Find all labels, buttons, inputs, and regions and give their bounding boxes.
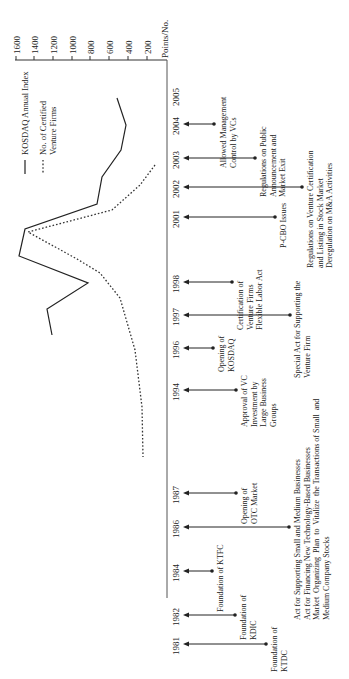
legend-venture-firms-label: No. of Certified Venture Firms — [38, 101, 58, 155]
arrowhead-icon — [183, 280, 189, 285]
tick-label-800: 800 — [86, 41, 96, 55]
axis-unit-label: Points/No. — [160, 20, 170, 58]
event-description: Certification of Venture Firms Flexible … — [236, 270, 265, 330]
tick-label-1000: 1000 — [68, 36, 78, 54]
event-description: Approval of VC Investment by Large Busin… — [240, 375, 278, 427]
event-description: Act for Supporting Small and Medium Busi… — [293, 399, 331, 620]
year-label: 2004 — [171, 117, 181, 135]
year-label: 1984 — [171, 564, 181, 582]
event-description: Special Act for Supporting the Venture F… — [293, 281, 312, 378]
tick-label-1400: 1400 — [30, 36, 40, 54]
arrowhead-icon — [183, 122, 189, 127]
event-endpoint-dot — [234, 388, 238, 392]
arrowhead-icon — [183, 613, 189, 618]
event-endpoint-dot — [234, 491, 238, 495]
event-description: Foundation of KTFC — [216, 544, 226, 612]
event-description: Foundation of KDIC — [239, 595, 258, 640]
year-label: 1986 — [171, 520, 181, 538]
arrowhead-icon — [183, 215, 189, 220]
event-endpoint-dot — [211, 346, 215, 350]
year-label: 1981 — [171, 637, 181, 655]
year-label: 1998 — [171, 275, 181, 293]
tick-label-1600: 1600 — [12, 36, 22, 54]
event-endpoint-dot — [253, 156, 257, 160]
event-endpoint-dot — [288, 313, 292, 317]
event-endpoint-dot — [230, 280, 234, 284]
arrowhead-icon — [183, 156, 189, 161]
year-label: 1994 — [171, 383, 181, 401]
arrowhead-icon — [183, 346, 189, 351]
arrowhead-icon — [183, 491, 189, 496]
value-axis-ticks — [16, 56, 147, 60]
event-endpoint-dot — [264, 642, 268, 646]
event-description: Regulations on Venture Certification and… — [306, 151, 335, 268]
year-label: 2003 — [171, 151, 181, 169]
event-endpoint-dot — [233, 613, 237, 617]
event-endpoint-dot — [300, 185, 304, 189]
year-label: 2005 — [171, 88, 181, 106]
year-label: 2002 — [171, 180, 181, 198]
event-endpoint-dot — [273, 215, 277, 219]
arrowhead-icon — [183, 642, 189, 647]
kosdaq-index-line — [19, 98, 126, 335]
arrowhead-icon — [183, 388, 189, 393]
year-label: 2001 — [171, 210, 181, 228]
year-label: 1987 — [171, 486, 181, 504]
arrowhead-icon — [183, 525, 189, 530]
event-description: Regulations on Public Announcement and M… — [259, 126, 288, 197]
event-description: Opening of OTC Market — [240, 483, 259, 524]
arrowhead-icon — [183, 313, 189, 318]
event-description: Allowed Management Control by VCs — [219, 97, 238, 168]
event-description: Opening of KOSDAQ — [217, 336, 236, 372]
event-description: Foundation of KTDC — [270, 627, 289, 672]
year-label: 1982 — [171, 608, 181, 626]
event-endpoint-dot — [210, 569, 214, 573]
year-label: 1996 — [171, 341, 181, 359]
tick-label-1200: 1200 — [49, 36, 59, 54]
tick-label-400: 400 — [124, 41, 134, 55]
tick-label-200: 200 — [143, 41, 153, 55]
year-label: 1997 — [171, 308, 181, 326]
event-endpoint-dot — [287, 525, 291, 529]
arrowhead-icon — [183, 185, 189, 190]
arrowhead-icon — [183, 569, 189, 574]
event-description: P-CBO Issues — [279, 203, 289, 248]
event-endpoint-dot — [212, 122, 216, 126]
legend-kosdaq-label: KOSDAQ Annual Index — [20, 71, 30, 155]
tick-label-600: 600 — [105, 41, 115, 55]
